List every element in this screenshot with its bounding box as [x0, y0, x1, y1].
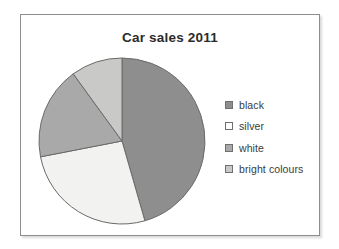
- legend-item-black[interactable]: black: [225, 94, 321, 116]
- legend-item-silver[interactable]: silver: [225, 116, 321, 138]
- legend: black silver white bright colours: [225, 94, 321, 180]
- legend-swatch-icon: [225, 101, 233, 109]
- pie-slice-group: [39, 58, 205, 224]
- legend-item-white[interactable]: white: [225, 137, 321, 159]
- legend-item-label: white: [239, 142, 264, 154]
- page-title: Car sales 2011: [21, 30, 319, 45]
- legend-swatch-icon: [225, 144, 233, 152]
- legend-swatch-icon: [225, 122, 233, 130]
- legend-item-label: silver: [239, 120, 264, 132]
- legend-item-bright-colours[interactable]: bright colours: [225, 159, 321, 181]
- pie-chart-svg: [37, 56, 207, 226]
- legend-item-label: bright colours: [239, 163, 303, 175]
- legend-swatch-icon: [225, 165, 233, 173]
- legend-item-label: black: [239, 99, 264, 111]
- pie-chart-plot-area: [37, 56, 207, 226]
- chart-frame: Car sales 2011 black silver white bright…: [20, 14, 320, 236]
